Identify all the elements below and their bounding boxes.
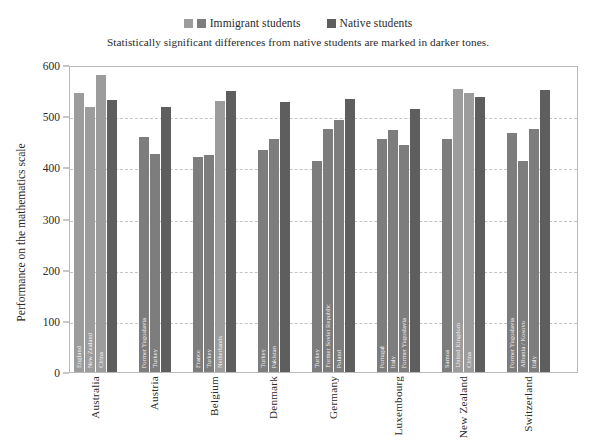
- bar-origin-label: Netherlands: [215, 336, 225, 368]
- bar-immigrant: Portugal: [377, 139, 387, 372]
- legend-swatch-immigrant-light: [184, 19, 193, 28]
- bar-immigrant: Albania / Kosovo: [518, 161, 528, 372]
- y-axis-tick-label: 500: [43, 111, 60, 123]
- bar-origin-label: China: [96, 352, 106, 368]
- y-axis: Performance on the mathematics scale 010…: [0, 66, 69, 373]
- bar-group: TurkeyFormer Soviet RepublicPoland: [312, 67, 355, 372]
- x-axis-group-label: Australia: [89, 376, 101, 419]
- bars-area: EnglandNew ZealandChinaFormer Yugoslavia…: [70, 67, 577, 372]
- bar-origin-label: Samoa: [442, 350, 452, 368]
- y-axis-tick-label: 300: [43, 214, 60, 226]
- bar-immigrant: China: [96, 75, 106, 372]
- legend-swatch-immigrant-dark: [197, 19, 206, 28]
- bar-immigrant: Turkey: [258, 150, 268, 372]
- legend-label-native: Native students: [340, 17, 413, 29]
- x-axis-group-label: Austria: [148, 376, 160, 410]
- bar-origin-label: Albania / Kosovo: [518, 321, 528, 368]
- bar-immigrant: Poland: [334, 120, 344, 372]
- bar-immigrant: Turkey: [204, 155, 214, 372]
- chart-subtitle: Statistically significant differences fr…: [0, 36, 596, 48]
- bar-origin-label: Italy: [388, 356, 398, 368]
- bar-group: SamoaUnited KingdomChina: [442, 67, 485, 372]
- bar-origin-label: New Zealand: [85, 333, 95, 368]
- bar-immigrant: Former Soviet Republic: [323, 129, 333, 372]
- y-axis-tick-label: 0: [54, 367, 60, 379]
- bar-immigrant: Former Yugoslavia: [399, 145, 409, 372]
- bar-native: [107, 100, 117, 372]
- bar-origin-label: France: [193, 350, 203, 368]
- bar-group: EnglandNew ZealandChina: [74, 67, 117, 372]
- y-axis-tick-label: 100: [43, 316, 60, 328]
- bar-origin-label: China: [464, 352, 474, 368]
- bar-immigrant: Former Yugoslavia: [139, 137, 149, 372]
- x-axis-group-label: Belgium: [208, 376, 220, 416]
- bar-group: FranceTurkeyNetherlands: [193, 67, 236, 372]
- bar-native: [345, 99, 355, 372]
- bar-origin-label: Former Yugoslavia: [139, 318, 149, 368]
- bar-immigrant: Italy: [388, 130, 398, 372]
- bar-origin-label: England: [74, 346, 84, 368]
- bar-group: PortugalItalyFormer Yugoslavia: [377, 67, 420, 372]
- x-axis-group-label: Denmark: [267, 376, 279, 419]
- bar-group: Former YugoslaviaTurkey: [139, 67, 171, 372]
- x-axis-labels: AustraliaAustriaBelgiumDenmarkGermanyLux…: [69, 376, 578, 446]
- bar-origin-label: United Kingdom: [453, 323, 463, 368]
- bar-immigrant: Former Yugoslavia: [507, 133, 517, 372]
- bar-origin-label: Turkey: [258, 349, 268, 368]
- bar-immigrant: Netherlands: [215, 101, 225, 372]
- bar-origin-label: Poland: [334, 350, 344, 368]
- bar-native: [280, 102, 290, 372]
- legend-swatch-native: [327, 19, 336, 28]
- bar-group: TurkeyPakistan: [258, 67, 290, 372]
- bar-immigrant: France: [193, 157, 203, 372]
- chart-legend: Immigrant students Native students: [0, 17, 596, 29]
- x-axis-group-label: New Zealand: [457, 376, 469, 438]
- bar-origin-label: Portugal: [377, 346, 387, 368]
- bar-immigrant: Pakistan: [269, 139, 279, 372]
- bar-immigrant: Samoa: [442, 139, 452, 372]
- bar-immigrant: China: [464, 93, 474, 372]
- legend-item-immigrant: Immigrant students: [184, 17, 301, 29]
- bar-origin-label: Turkey: [150, 349, 160, 368]
- bar-native: [226, 91, 236, 372]
- bar-origin-label: Italy: [529, 356, 539, 368]
- legend-label-immigrant: Immigrant students: [210, 17, 301, 29]
- bar-immigrant: England: [74, 93, 84, 372]
- bar-immigrant: Turkey: [150, 154, 160, 372]
- bar-immigrant: United Kingdom: [453, 89, 463, 372]
- y-axis-tick-label: 200: [43, 265, 60, 277]
- bar-origin-label: Former Yugoslavia: [399, 318, 409, 368]
- bar-immigrant: New Zealand: [85, 107, 95, 372]
- plot-area: EnglandNew ZealandChinaFormer Yugoslavia…: [69, 66, 578, 373]
- y-axis-title: Performance on the mathematics scale: [15, 108, 28, 358]
- y-axis-tick-label: 400: [43, 162, 60, 174]
- bar-origin-label: Turkey: [204, 349, 214, 368]
- bar-immigrant: Italy: [529, 129, 539, 372]
- y-axis-tick-label: 600: [43, 60, 60, 72]
- bar-native: [161, 107, 171, 372]
- bar-native: [410, 109, 420, 372]
- bar-native: [540, 90, 550, 372]
- legend-item-native: Native students: [327, 17, 413, 29]
- bar-native: [475, 97, 485, 372]
- bar-origin-label: Turkey: [312, 349, 322, 368]
- x-axis-group-label: Germany: [327, 376, 339, 419]
- chart-container: Immigrant students Native students Stati…: [0, 0, 596, 446]
- bar-group: Former YugoslaviaAlbania / KosovoItaly: [507, 67, 550, 372]
- x-axis-group-label: Luxembourg: [392, 376, 404, 436]
- bar-origin-label: Former Yugoslavia: [507, 318, 517, 368]
- x-axis-group-label: Switzerland: [522, 376, 534, 432]
- bar-origin-label: Pakistan: [269, 346, 279, 368]
- bar-origin-label: Former Soviet Republic: [323, 304, 333, 368]
- bar-immigrant: Turkey: [312, 161, 322, 372]
